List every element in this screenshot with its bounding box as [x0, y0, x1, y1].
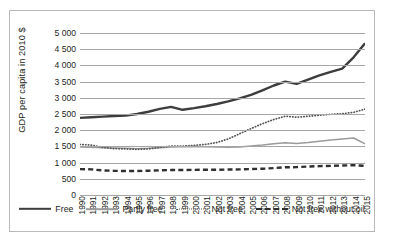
y-axis-tick-label: 1 000: [30, 158, 76, 167]
chart-figure: GDP per capita in 2010 $ 05001 0001 5002…: [9, 10, 375, 232]
chart-plot-region: GDP per capita in 2010 $ 05001 0001 5002…: [10, 11, 374, 231]
y-axis-tick-label: 4 000: [30, 61, 76, 70]
legend-item-label: Free: [55, 204, 73, 214]
legend-item-label: Not free without oil: [292, 204, 365, 214]
gridline: [80, 98, 365, 99]
gridline: [80, 82, 365, 83]
y-axis-tick-label: 3 500: [30, 77, 76, 86]
gridline: [80, 163, 365, 164]
y-axis-tick-label: 500: [30, 175, 76, 184]
gridlines-layer: [80, 33, 365, 195]
legend-swatch-icon: [176, 204, 208, 214]
gridline: [80, 130, 365, 131]
gridline: [80, 49, 365, 50]
gridline: [80, 179, 365, 180]
chart-legend: FreePartly freeNot freeNot free without …: [24, 201, 360, 217]
legend-item[interactable]: Free: [19, 204, 73, 214]
y-axis-tick-labels: 05001 0001 5002 0002 5003 0003 5004 0004…: [30, 11, 76, 231]
gridline: [80, 33, 365, 34]
y-axis-tick-label: 4 500: [30, 45, 76, 54]
legend-swatch-icon: [256, 204, 288, 214]
y-axis-tick-label: 3 000: [30, 94, 76, 103]
legend-swatch-icon: [86, 204, 118, 214]
legend-swatch-icon: [19, 204, 51, 214]
y-axis-tick-label: 2 000: [30, 126, 76, 135]
y-axis-tick-label: 0: [30, 191, 76, 200]
y-axis-title: GDP per capita in 2010 $: [17, 15, 31, 145]
gridline: [80, 114, 365, 115]
y-axis-tick-label: 5 000: [30, 29, 76, 38]
legend-item[interactable]: Not free without oil: [256, 204, 365, 214]
gridline: [80, 146, 365, 147]
y-axis-tick-label: 2 500: [30, 110, 76, 119]
legend-item-label: Partly free: [122, 204, 162, 214]
legend-item[interactable]: Partly free: [86, 204, 162, 214]
plot-canvas: [80, 33, 365, 195]
legend-item[interactable]: Not free: [176, 204, 243, 214]
gridline: [80, 65, 365, 66]
legend-item-label: Not free: [212, 204, 243, 214]
y-axis-tick-label: 1 500: [30, 142, 76, 151]
